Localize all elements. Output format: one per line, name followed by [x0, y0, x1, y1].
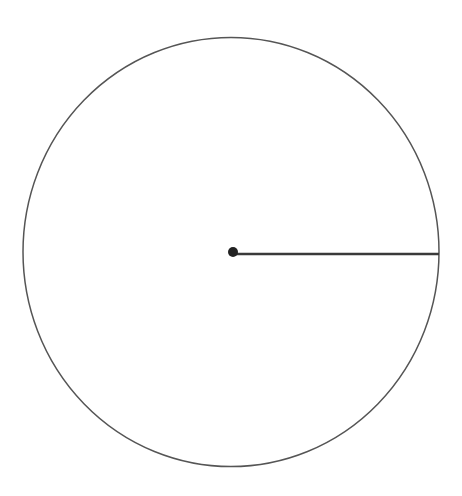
center-point [228, 247, 238, 257]
circle-diagram [0, 0, 462, 496]
